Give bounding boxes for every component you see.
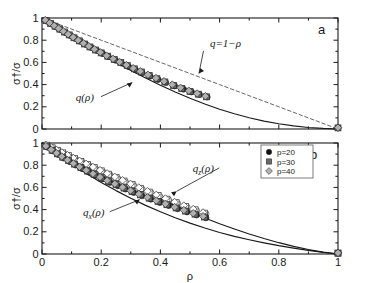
legend-label-p=40: p=40 [277, 167, 296, 176]
panel-b-ytick-label: 1 [32, 137, 38, 149]
panel-a-ytick-label: 0 [32, 123, 38, 135]
annotation-qz-of-rho: qz(ρ) [193, 162, 214, 177]
panel-a-ylabel: σ†/σ [10, 62, 22, 85]
annotation-q-equals-1-minus-rho: q=1−ρ [210, 37, 241, 49]
xtick-label: 0 [39, 256, 45, 268]
panel-b-ytick-label: 0 [32, 248, 38, 260]
panel-a-ytick-label: 0.2 [23, 100, 38, 112]
panel-a-ytick-label: 0.4 [23, 78, 38, 90]
xlabel: ρ [187, 270, 193, 282]
panel-a-ytick-label: 0.8 [23, 34, 38, 46]
legend-label-p=30: p=30 [277, 158, 296, 167]
panel-b-ytick-label: 0.6 [23, 181, 38, 193]
panel-a-ytick-label: 1 [32, 12, 38, 24]
two-panel-scatter-figure: a00.20.40.60.81σ†/σq=1−ρq(ρ)b00.20.40.60… [0, 0, 365, 283]
legend-label-p=20: p=20 [277, 148, 296, 157]
panel-b-ytick-label: 0.8 [23, 159, 38, 171]
xtick-label: 0.4 [153, 256, 168, 268]
panel-b-ylabel: σ†/σ [10, 187, 22, 210]
panel-b-ytick-label: 0.2 [23, 225, 38, 237]
curve-q=1−ρ [42, 18, 338, 129]
legend-marker-p=30 [266, 159, 271, 164]
xtick-label: 1 [335, 256, 341, 268]
panel-b-ytick-label: 0.4 [23, 203, 38, 215]
xtick-label: 0.8 [271, 256, 286, 268]
annotation-q-of-rho: q(ρ) [76, 91, 94, 104]
figure-container: a00.20.40.60.81σ†/σq=1−ρq(ρ)b00.20.40.60… [0, 0, 365, 283]
panel-a-ytick-label: 0.6 [23, 56, 38, 68]
xtick-label: 0.2 [94, 256, 109, 268]
annotation-qx-of-rho: qx(ρ) [83, 206, 105, 221]
xtick-label: 0.6 [212, 256, 227, 268]
annotation-arrow-head [171, 191, 177, 196]
panel-letter-a: a [318, 22, 326, 37]
legend-marker-p=20 [266, 149, 271, 154]
